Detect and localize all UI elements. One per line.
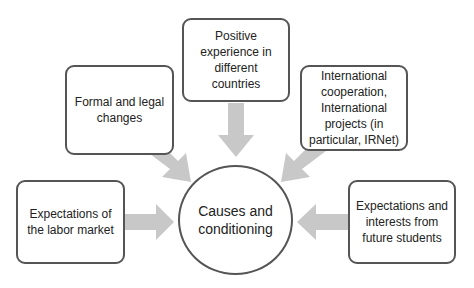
box-label: Expectations and interests from future s… [356, 198, 448, 246]
arrow-left-icon [297, 204, 348, 240]
box-international-cooperation: International cooperation, International… [300, 65, 408, 151]
box-label: Expectations of the labor market [27, 206, 114, 238]
box-label: Formal and legal changes [75, 94, 164, 126]
center-circle: Causes and conditioning [178, 165, 293, 275]
center-label: Causes and conditioning [198, 202, 273, 238]
box-future-students: Expectations and interests from future s… [348, 180, 456, 264]
arrow-down-icon [218, 103, 254, 157]
box-positive-experience: Positive experience in different countri… [182, 18, 290, 102]
box-labor-market: Expectations of the labor market [16, 180, 125, 264]
arrow-right-icon [125, 204, 174, 240]
box-label: Positive experience in different countri… [200, 28, 271, 92]
box-formal-legal: Formal and legal changes [65, 65, 174, 155]
box-label: International cooperation, International… [309, 68, 399, 148]
